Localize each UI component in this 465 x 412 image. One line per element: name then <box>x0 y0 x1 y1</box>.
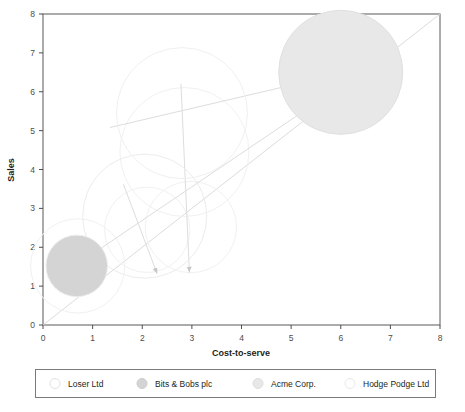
y-tick-label: 0 <box>30 320 35 330</box>
x-tick-label: 6 <box>338 333 343 343</box>
y-tick-label: 5 <box>30 126 35 136</box>
company-bubble[interactable] <box>46 235 108 297</box>
x-tick-label: 8 <box>438 333 443 343</box>
legend-item-label[interactable]: Hodge Podge Ltd <box>363 379 429 389</box>
y-axis-title: Sales <box>6 158 16 182</box>
y-tick-label: 6 <box>30 87 35 97</box>
legend-item-label[interactable]: Loser Ltd <box>68 379 104 389</box>
x-tick-label: 4 <box>239 333 244 343</box>
x-tick-label: 0 <box>41 333 46 343</box>
x-tick-label: 2 <box>140 333 145 343</box>
x-tick-label: 7 <box>388 333 393 343</box>
legend-marker-icon <box>50 379 60 389</box>
y-tick-label: 7 <box>30 48 35 58</box>
y-tick-label: 8 <box>30 9 35 19</box>
x-tick-label: 3 <box>190 333 195 343</box>
x-tick-label: 5 <box>289 333 294 343</box>
bubble-chart-container: 012345678 012345678 Cost-to-serve Sales … <box>0 0 465 412</box>
chart-legend: Loser LtdBits & Bobs plcAcme Corp.Hodge … <box>36 370 436 398</box>
x-axis-title: Cost-to-serve <box>212 348 270 358</box>
legend-marker-icon <box>345 379 355 389</box>
chart-canvas: 012345678 012345678 Cost-to-serve Sales … <box>0 0 465 412</box>
y-tick-label: 4 <box>30 165 35 175</box>
y-tick-label: 3 <box>30 203 35 213</box>
y-tick-label: 1 <box>30 281 35 291</box>
legend-marker-icon <box>137 379 147 389</box>
legend-marker-icon <box>253 379 263 389</box>
x-tick-label: 1 <box>90 333 95 343</box>
company-bubble[interactable] <box>279 10 403 134</box>
legend-item-label[interactable]: Acme Corp. <box>271 379 316 389</box>
legend-item-label[interactable]: Bits & Bobs plc <box>155 379 213 389</box>
